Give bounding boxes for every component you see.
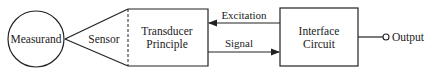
measurand-node: Measurand xyxy=(8,11,64,67)
interface-node: Interface Circuit xyxy=(280,8,358,66)
interface-label-line1: Interface xyxy=(299,25,340,37)
signal-edge: Signal xyxy=(208,37,279,52)
output-label: Output xyxy=(392,31,425,44)
signal-label: Signal xyxy=(225,37,253,49)
sensor-label: Sensor xyxy=(88,33,119,45)
measurand-label: Measurand xyxy=(10,33,61,45)
interface-label-line2: Circuit xyxy=(303,38,336,50)
excitation-label: Excitation xyxy=(221,9,267,21)
excitation-edge: Excitation xyxy=(209,9,280,23)
output-terminal-icon xyxy=(383,34,389,40)
sensor-block-diagram: Measurand Sensor Transducer Principle Ex… xyxy=(0,0,433,77)
sensor-node: Sensor xyxy=(65,9,128,66)
transducer-label-line1: Transducer xyxy=(141,25,192,37)
transducer-node: Transducer Principle xyxy=(128,9,208,66)
transducer-label-line2: Principle xyxy=(146,38,188,51)
output-node: Output xyxy=(358,31,425,44)
